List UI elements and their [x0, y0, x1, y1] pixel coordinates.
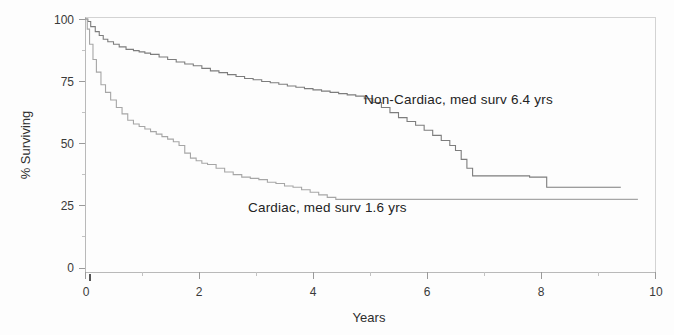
kaplan-meier-plot: 0 25 50 75 100 0 2 4 6 8 [0, 0, 674, 335]
non-cardiac-series-label: Non-Cardiac, med surv 6.4 yrs [364, 92, 553, 107]
y-tick-label-75: 75 [61, 75, 75, 89]
y-axis-ticks [79, 19, 85, 268]
x-axis-title: Years [353, 310, 386, 325]
x-tick-label-6: 6 [424, 285, 431, 299]
x-tick-label-8: 8 [538, 285, 545, 299]
survival-curve-cardiac [85, 19, 638, 199]
x-tick-label-10: 10 [649, 285, 663, 299]
y-tick-label-0: 0 [67, 261, 74, 275]
y-tick-label-50: 50 [61, 137, 75, 151]
y-tick-label-100: 100 [54, 13, 74, 27]
y-axis-tick-labels: 0 25 50 75 100 [54, 13, 74, 276]
survival-chart-figure: 0 25 50 75 100 0 2 4 6 8 [0, 0, 674, 335]
x-tick-label-0: 0 [83, 285, 90, 299]
x-tick-label-2: 2 [196, 285, 203, 299]
plot-frame [85, 17, 655, 272]
x-axis-tick-labels: 0 2 4 6 8 10 [83, 285, 663, 299]
y-axis-title: % Surviving [18, 111, 33, 180]
x-axis-ticks [85, 272, 655, 281]
y-tick-label-25: 25 [61, 199, 75, 213]
x-tick-label-4: 4 [310, 285, 317, 299]
cardiac-series-label: Cardiac, med surv 1.6 yrs [248, 200, 407, 215]
